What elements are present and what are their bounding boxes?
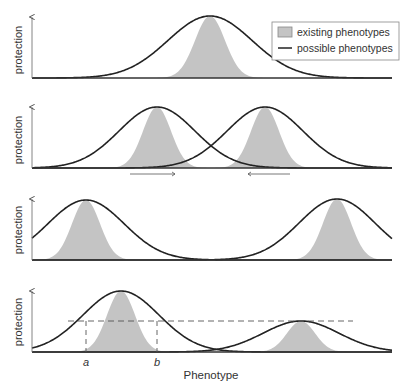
panel-3 <box>30 199 393 260</box>
marker-b: b <box>154 356 160 368</box>
y-axis-label-1: protection <box>12 26 24 74</box>
existing-phenotype-distribution <box>150 16 270 78</box>
y-axis-label-3: protection <box>12 206 24 254</box>
x-axis-label: Phenotype <box>184 369 239 381</box>
y-axis-label-4: protection <box>12 298 24 346</box>
existing-phenotype-distribution <box>101 107 213 168</box>
legend-possible-label: possible phenotypes <box>297 42 393 54</box>
panel-2 <box>32 107 392 176</box>
existing-phenotype-distribution <box>281 199 393 260</box>
existing-phenotype-distribution <box>65 291 177 352</box>
legend-existing-label: existing phenotypes <box>297 26 390 38</box>
legend: existing phenotypes possible phenotypes <box>272 22 399 60</box>
marker-a: a <box>83 356 89 368</box>
y-axis-label-2: protection <box>12 116 24 164</box>
existing-phenotype-distribution <box>30 200 142 260</box>
possible-phenotype-curve <box>32 107 392 168</box>
legend-swatch-existing <box>278 27 292 37</box>
panel-4 <box>32 291 392 352</box>
existing-phenotype-distribution <box>245 321 357 352</box>
existing-phenotype-distribution <box>209 107 321 168</box>
phenotype-protection-diagram: existing phenotypes possible phenotypes … <box>0 0 406 389</box>
